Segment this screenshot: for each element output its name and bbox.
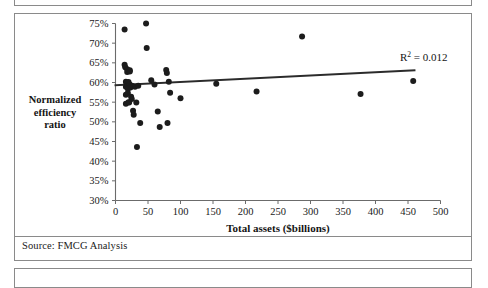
y-axis-title-line-3: ratio [18,119,92,132]
figure-box [14,13,472,261]
y-axis-title-line-2: efficiency [18,107,92,120]
following-content-box [14,268,472,288]
y-axis-title-line-1: Normalized [18,94,92,107]
preceding-content-box [14,0,472,6]
source-divider [15,236,471,237]
source-note: Source: FMCG Analysis [22,240,127,251]
y-axis-title: Normalized efficiency ratio [18,94,92,132]
